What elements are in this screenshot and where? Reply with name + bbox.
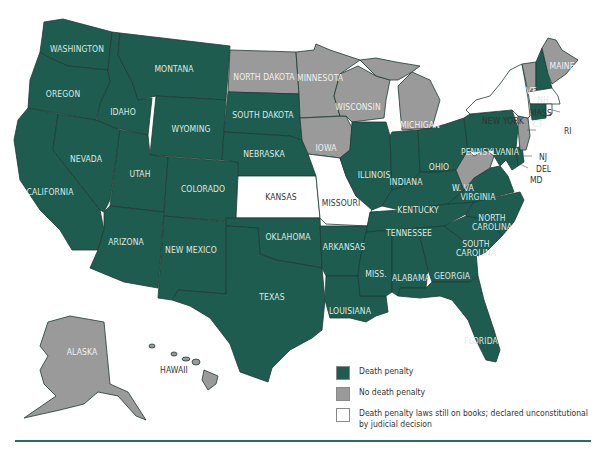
callout-rhode-island: RI (564, 126, 572, 136)
state-hawaii-big-island[interactable] (202, 370, 218, 390)
label-california: CALIFORNIA (26, 188, 73, 197)
label-north-carolina: NORTHCAROLINA (472, 214, 512, 233)
label-new-mexico: NEW MEXICO (165, 246, 217, 255)
label-colorado: COLORADO (181, 185, 225, 194)
label-virginia: VIRGINIA (461, 193, 496, 202)
label-oregon: OREGON (46, 90, 80, 99)
label-oklahoma: OKLAHOMA (265, 233, 310, 242)
legend-item-no-death-penalty: No death penalty (336, 387, 589, 401)
label-iowa: IOWA (316, 144, 337, 153)
label-west-virginia: W. VA (452, 184, 474, 193)
label-utah: UTAH (130, 170, 151, 179)
state-florida[interactable] (398, 276, 500, 362)
label-kentucky: KENTUCKY (397, 206, 438, 215)
state-hawaii-molokai[interactable] (182, 357, 190, 361)
legend: Death penalty No death penalty Death pen… (336, 366, 589, 437)
callout-new-jersey: NJ (539, 152, 547, 162)
label-nebraska: NEBRASKA (243, 150, 285, 159)
label-ohio: OHIO (429, 163, 449, 172)
legend-label: Death penalty laws still on books; decla… (359, 408, 589, 430)
state-hawaii-niihau[interactable] (149, 344, 155, 348)
label-washington: WASHINGTON (50, 45, 104, 54)
label-massachusetts: MASS (530, 109, 552, 118)
state-new-york[interactable] (466, 64, 530, 118)
label-tennessee: TENNESSEE (386, 229, 432, 238)
label-mississippi: MISS. (365, 270, 387, 279)
label-indiana: INDIANA (390, 178, 423, 187)
label-new-hampshire: NH (537, 96, 549, 105)
label-connecticut: CT (533, 120, 543, 129)
bottom-rule (15, 440, 591, 442)
label-south-carolina: SOUTHCAROLINA (456, 240, 496, 259)
label-nevada: NEVADA (70, 155, 102, 164)
label-alabama: ALABAMA (392, 274, 430, 283)
swatch-unconstitutional (336, 408, 350, 422)
label-north-dakota: NORTH DAKOTA (233, 73, 294, 82)
label-illinois: ILLINOIS (358, 171, 391, 180)
label-georgia: GEORGIA (434, 272, 470, 281)
label-kansas: KANSAS (265, 193, 297, 202)
label-montana: MONTANA (154, 65, 193, 74)
legend-item-death-penalty: Death penalty (336, 366, 589, 380)
legend-label: Death penalty (359, 366, 589, 377)
state-alaska[interactable] (24, 316, 146, 420)
label-missouri: MISSOURI (322, 199, 361, 208)
label-vermont: VT (526, 87, 536, 96)
label-florida: FLORIDA (464, 337, 498, 346)
label-wisconsin: WISCONSIN (335, 103, 380, 112)
label-wyoming: WYOMING (172, 125, 211, 134)
callout-delaware: DEL (536, 164, 551, 174)
label-louisiana: LOUISIANA (329, 307, 371, 316)
label-arizona: ARIZONA (108, 238, 144, 247)
legend-label: No death penalty (359, 387, 589, 398)
label-south-dakota: SOUTH DAKOTA (232, 111, 293, 120)
legend-item-unconstitutional: Death penalty laws still on books; decla… (336, 408, 589, 430)
label-alaska: ALASKA (67, 348, 97, 357)
callout-maryland: MD (530, 175, 543, 185)
state-hawaii-oahu[interactable] (171, 352, 177, 356)
label-pennsylvania: PENNSYLVANIA (461, 148, 519, 157)
state-new-mexico[interactable] (158, 216, 228, 300)
label-michigan: MICHIGAN (400, 121, 440, 130)
label-idaho: IDAHO (110, 108, 136, 117)
label-maine: MAINE (549, 62, 574, 71)
state-hawaii-maui[interactable] (192, 359, 200, 365)
swatch-no-death-penalty (336, 387, 350, 401)
label-new-york: NEW YORK (482, 117, 524, 126)
label-texas: TEXAS (259, 293, 284, 302)
label-arkansas: ARKANSAS (323, 243, 365, 252)
label-hawaii: HAWAII (160, 366, 188, 375)
swatch-death-penalty (336, 366, 350, 380)
label-minnesota: MINNESOTA (297, 74, 343, 83)
